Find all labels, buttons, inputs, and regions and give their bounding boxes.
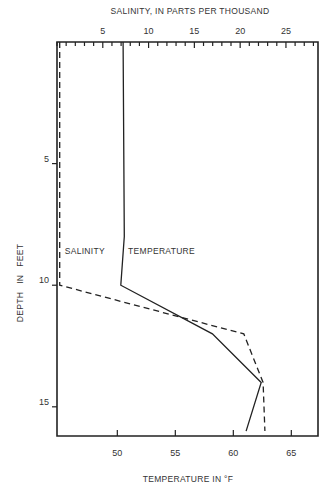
- bottom-tick-label: 65: [286, 448, 296, 458]
- top-tick-label: 20: [235, 26, 245, 36]
- salinity-annotation: SALINITY: [65, 246, 105, 256]
- depth-profile-chart: SALINITY, IN PARTS PER THOUSAND TEMPERAT…: [0, 0, 326, 492]
- left-tick-label: 5: [44, 154, 49, 164]
- bottom-tick-label: 50: [112, 448, 122, 458]
- left-tick-label: 10: [39, 275, 49, 285]
- top-axis-ticks: 510152025: [57, 26, 313, 48]
- bottom-tick-label: 55: [170, 448, 180, 458]
- bottom-axis-title: TEMPERATURE IN °F: [143, 474, 234, 484]
- left-tick-label: 15: [39, 397, 49, 407]
- temperature-annotation: TEMPERATURE: [128, 246, 195, 256]
- annotations: SALINITYTEMPERATURE: [65, 246, 195, 256]
- series-group: [60, 42, 265, 431]
- top-tick-label: 10: [144, 26, 154, 36]
- plot-frame: [57, 42, 318, 436]
- salinity-line: [60, 42, 265, 431]
- top-tick-label: 5: [100, 26, 105, 36]
- top-axis-title: SALINITY, IN PARTS PER THOUSAND: [111, 6, 270, 16]
- bottom-axis-ticks: 50556065: [112, 430, 296, 458]
- temperature-line: [121, 42, 261, 431]
- top-tick-label: 25: [281, 26, 291, 36]
- left-axis-ticks: 51015: [39, 154, 57, 407]
- y-axis-title: DEPTH IN FEET: [15, 244, 25, 322]
- plot-border: [57, 42, 318, 436]
- top-tick-label: 15: [189, 26, 199, 36]
- bottom-tick-label: 60: [228, 448, 238, 458]
